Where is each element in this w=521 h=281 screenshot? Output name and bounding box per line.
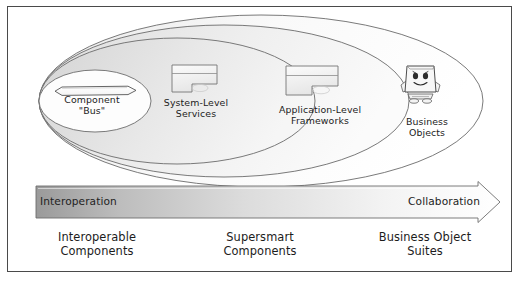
node-label-business-objects: Business Objects <box>385 117 469 138</box>
node-label-component-bus: Component "Bus" <box>44 95 140 116</box>
bottom-label-business-object-suites: Business Object Suites <box>345 231 505 259</box>
arrow-label-interoperation: Interoperation <box>40 196 190 208</box>
bottom-label-supersmart-components: Supersmart Components <box>185 231 335 259</box>
bottom-label-interoperable-components: Interoperable Components <box>22 231 172 259</box>
arrow-label-collaboration: Collaboration <box>340 196 480 208</box>
node-label-application-level-frameworks: Application-Level Frameworks <box>268 105 372 126</box>
diagram-figure: Component "Bus" System-Level Services Ap… <box>0 0 521 281</box>
node-label-system-level-services: System-Level Services <box>148 98 244 119</box>
